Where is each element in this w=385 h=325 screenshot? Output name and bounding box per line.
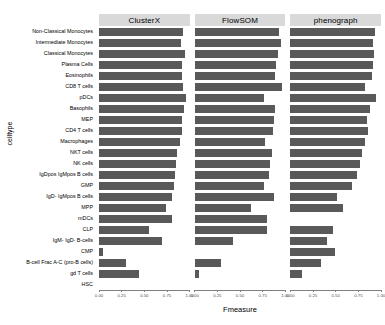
bar <box>290 50 373 58</box>
bar <box>195 182 264 190</box>
facet-plot-area <box>195 26 286 290</box>
bar-row <box>290 38 381 47</box>
bar-row <box>195 49 286 58</box>
bar-row <box>99 214 190 223</box>
bar-row <box>99 203 190 212</box>
bar <box>195 94 265 102</box>
bar-row <box>290 170 381 179</box>
y-tick-label: NKT cells <box>0 148 96 157</box>
bar <box>290 226 333 234</box>
bar-row <box>99 192 190 201</box>
bar <box>195 127 273 135</box>
bar <box>195 105 276 113</box>
facet-strip-label: phenograph <box>290 14 381 26</box>
y-axis-tick-labels: Non-Classical MonocytesIntermediate Mono… <box>0 26 96 290</box>
y-tick-label: gd T cells <box>0 269 96 278</box>
bar-row <box>195 137 286 146</box>
bar <box>99 160 176 168</box>
x-axis-panel: 0.000.250.500.751.00 <box>195 290 286 304</box>
bar-row <box>195 148 286 157</box>
y-tick-label: IgD- IgMpos B cells <box>0 192 96 201</box>
bar <box>290 171 357 179</box>
y-tick-label: pDCs <box>0 93 96 102</box>
bar-row <box>290 126 381 135</box>
bar <box>195 61 277 69</box>
bar-row <box>195 181 286 190</box>
bar-row <box>99 126 190 135</box>
bar-row <box>195 93 286 102</box>
y-tick-label: NK cells <box>0 159 96 168</box>
bar <box>290 237 326 245</box>
bar <box>99 149 177 157</box>
bar-row <box>290 115 381 124</box>
x-tick-label: 1.00 <box>377 293 385 298</box>
bar <box>195 171 269 179</box>
facet-grid: ClusterXFlowSOMphenograph <box>99 14 381 290</box>
y-tick-label: Classical Monocytes <box>0 49 96 58</box>
facet-panel-clusterx: ClusterX <box>99 14 190 290</box>
y-tick-label: Macrophages <box>0 137 96 146</box>
x-tick-mark <box>217 290 218 292</box>
bar-row <box>195 280 286 289</box>
x-tick-mark <box>381 290 382 292</box>
bar <box>195 215 268 223</box>
y-tick-label: Intermediate Monocytes <box>0 38 96 47</box>
bar <box>99 237 162 245</box>
bar <box>99 182 174 190</box>
bar <box>99 72 182 80</box>
bar-row <box>99 258 190 267</box>
bar <box>99 138 180 146</box>
bar <box>99 116 182 124</box>
bar-row <box>99 27 190 36</box>
x-tick-label: 0.25 <box>309 293 317 298</box>
facet-panel-phenograph: phenograph <box>290 14 381 290</box>
bar <box>290 204 343 212</box>
bar <box>195 28 279 36</box>
bar <box>195 116 275 124</box>
bar <box>99 39 181 47</box>
x-tick-label: 0.25 <box>213 293 221 298</box>
bar <box>290 270 302 278</box>
bar-row <box>99 38 190 47</box>
x-tick-mark <box>290 290 291 292</box>
bar <box>195 138 266 146</box>
bar-row <box>290 104 381 113</box>
bar-row <box>99 148 190 157</box>
bar <box>99 50 185 58</box>
bar-row <box>195 27 286 36</box>
x-tick-label: 0.00 <box>286 293 294 298</box>
bar-row <box>290 203 381 212</box>
bar <box>290 160 360 168</box>
bar-row <box>195 203 286 212</box>
bar <box>195 259 221 267</box>
bar <box>195 83 282 91</box>
bar-row <box>195 38 286 47</box>
bar <box>195 149 272 157</box>
y-tick-label: Plasma Cells <box>0 60 96 69</box>
bar-row <box>195 115 286 124</box>
bar <box>195 226 268 234</box>
x-tick-label: 0.50 <box>331 293 339 298</box>
bar <box>290 259 321 267</box>
bar <box>290 72 372 80</box>
bar-row <box>290 247 381 256</box>
bar <box>195 50 278 58</box>
bar-row <box>99 280 190 289</box>
bar <box>99 28 183 36</box>
bar <box>290 127 368 135</box>
bar-row <box>290 181 381 190</box>
bar-row <box>290 269 381 278</box>
bar <box>290 149 362 157</box>
y-tick-label: CD4 T cells <box>0 126 96 135</box>
bar-row <box>195 170 286 179</box>
bar-row <box>195 104 286 113</box>
bar-row <box>290 159 381 168</box>
bar-row <box>99 225 190 234</box>
bar-row <box>195 82 286 91</box>
x-tick-label: 0.75 <box>354 293 362 298</box>
y-tick-label: MEP <box>0 115 96 124</box>
bar-row <box>290 280 381 289</box>
bar-row <box>99 82 190 91</box>
bar-row <box>99 93 190 102</box>
